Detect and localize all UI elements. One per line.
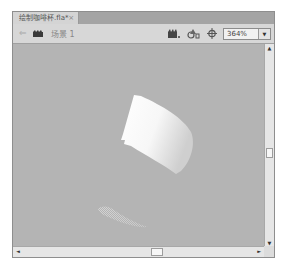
back-arrow-icon[interactable]: ⇐ xyxy=(19,28,27,38)
chevron-down-icon[interactable]: ▼ xyxy=(258,29,270,39)
scroll-up-icon[interactable]: ▲ xyxy=(265,45,274,51)
horizontal-scrollbar[interactable]: ◄ ► xyxy=(13,246,264,257)
surrounding-text-fragment xyxy=(14,0,164,5)
scene-bar: ⇐ 场景 1 364% ▼ xyxy=(13,24,274,44)
cup-body xyxy=(121,95,193,174)
stage-artwork xyxy=(13,44,264,247)
stage-canvas[interactable] xyxy=(13,44,264,247)
vertical-scroll-thumb[interactable] xyxy=(266,148,273,158)
edit-symbol-icon[interactable] xyxy=(187,28,200,39)
vertical-scrollbar[interactable]: ▲ ▼ xyxy=(264,44,274,247)
tab-bar: 绘制咖啡杯.fla* × xyxy=(13,12,274,24)
close-tab-icon[interactable]: × xyxy=(68,12,74,24)
cup-reflection xyxy=(98,207,148,228)
document-tab-title: 绘制咖啡杯.fla* xyxy=(19,14,68,22)
document-tab[interactable]: 绘制咖啡杯.fla* × xyxy=(13,12,79,24)
horizontal-scroll-thumb[interactable] xyxy=(151,248,163,256)
document-window: 绘制咖啡杯.fla* × ⇐ 场景 1 364% ▼ xyxy=(12,11,275,258)
scroll-left-icon[interactable]: ◄ xyxy=(16,248,20,254)
center-stage-icon[interactable] xyxy=(207,28,217,39)
scrollbar-corner xyxy=(264,246,274,257)
zoom-select[interactable]: 364% ▼ xyxy=(223,28,271,40)
zoom-value: 364% xyxy=(227,29,247,39)
edit-scene-icon[interactable] xyxy=(168,29,180,38)
scroll-right-icon[interactable]: ► xyxy=(257,248,261,254)
scene-label[interactable]: 场景 1 xyxy=(51,28,75,39)
clapperboard-icon xyxy=(33,30,43,37)
